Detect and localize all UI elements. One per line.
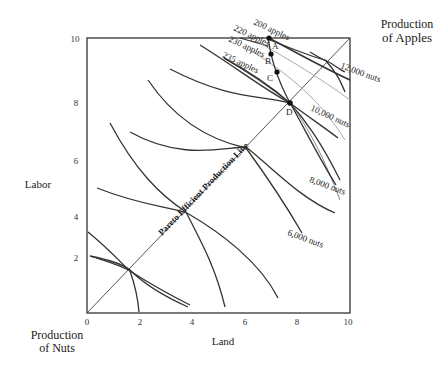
- edgeworth-box-diagram: 0 2 4 6 8 10 2 4 6 8 10 Pareto Efficient…: [0, 0, 439, 375]
- y-tick-10: 10: [71, 34, 81, 44]
- apples-origin-label: Production of Apples: [372, 18, 439, 44]
- label-c: C: [267, 73, 273, 83]
- x-axis-label: Land: [203, 335, 243, 348]
- label-b: B: [265, 56, 271, 66]
- nut-isoquant-1: [90, 256, 188, 307]
- apple-labels: 200 apples 220 apples 230 apples 235 app…: [221, 17, 293, 117]
- apple-isoquant-200: [269, 38, 350, 80]
- apples-origin-line2: of Apples: [372, 31, 439, 44]
- label-12000-nuts: 12,000 nuts: [339, 60, 382, 84]
- x-tick-0: 0: [85, 317, 90, 327]
- point-c: [274, 69, 279, 74]
- point-d: [287, 100, 293, 106]
- label-6000-nuts: 6,000 nuts: [286, 227, 325, 249]
- y-tick-6: 6: [74, 156, 79, 166]
- label-d: D: [286, 107, 293, 117]
- label-a: A: [272, 41, 279, 51]
- y-tick-8: 8: [74, 98, 79, 108]
- label-8000-nuts: 8,000 nuts: [308, 174, 347, 196]
- y-tick-2: 2: [74, 253, 79, 263]
- x-tick-8: 8: [295, 317, 300, 327]
- y-tick-4: 4: [74, 212, 79, 222]
- x-tick-2: 2: [138, 317, 143, 327]
- label-10000-nuts: 10,000 nuts: [309, 103, 352, 130]
- x-tick-4: 4: [190, 317, 195, 327]
- nuts-origin-label: Production of Nuts: [22, 329, 92, 355]
- x-tick-6: 6: [243, 317, 248, 327]
- y-axis-label: Labor: [18, 178, 58, 191]
- x-tick-10: 10: [344, 317, 354, 327]
- nuts-origin-line2: of Nuts: [22, 342, 92, 355]
